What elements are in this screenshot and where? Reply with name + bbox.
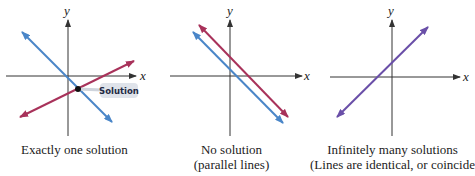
- y-axis-label: y: [225, 3, 233, 18]
- x-axis-label: x: [139, 68, 146, 83]
- caption-line: (Lines are identical, or coincide.): [310, 157, 475, 172]
- solution-label: Solution: [99, 86, 139, 96]
- caption-no-solution: No solution (parallel lines): [184, 142, 279, 172]
- solution-point: [75, 86, 81, 92]
- caption-one-solution: Exactly one solution: [21, 142, 128, 157]
- panel-one-solution: x y Solution: [6, 3, 146, 136]
- caption-line: Infinitely many solutions: [310, 142, 475, 157]
- y-axis-label: y: [386, 3, 394, 18]
- line-blue: [193, 32, 283, 123]
- line-purple-coincident: [337, 27, 428, 117]
- line-red: [199, 25, 288, 117]
- caption-line: Exactly one solution: [21, 142, 128, 157]
- caption-infinitely-many: Infinitely many solutions (Lines are ide…: [310, 142, 475, 172]
- caption-line: No solution: [184, 142, 279, 157]
- panel-no-solution: x y: [170, 3, 310, 136]
- panel-infinitely-many: x y: [330, 3, 469, 136]
- caption-line: (parallel lines): [184, 157, 279, 172]
- x-axis-label: x: [303, 68, 310, 83]
- y-axis-label: y: [62, 3, 70, 18]
- x-axis-label: x: [462, 69, 469, 84]
